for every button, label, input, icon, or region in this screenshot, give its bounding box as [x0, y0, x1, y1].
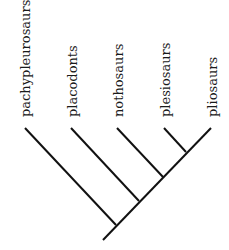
cladogram: pachypleurosaurs placodonts nothosaurs p…: [0, 0, 229, 250]
label-pachypleurosaurs: pachypleurosaurs: [18, 0, 33, 117]
label-nothosaurs: nothosaurs: [111, 44, 126, 117]
label-pliosaurs: pliosaurs: [205, 57, 220, 117]
trunk-branch: [103, 128, 211, 240]
label-plesiosaurs: plesiosaurs: [158, 42, 173, 117]
branch-nothosaurs: [117, 128, 163, 177]
tree-branches: [25, 128, 211, 240]
taxon-labels: pachypleurosaurs placodonts nothosaurs p…: [18, 0, 220, 117]
branch-plesiosaurs: [164, 128, 186, 152]
label-placodonts: placodonts: [65, 45, 80, 117]
branch-pachypleurosaurs: [25, 128, 116, 225]
branch-placodonts: [71, 128, 139, 201]
